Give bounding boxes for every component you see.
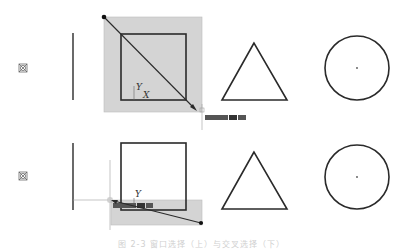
axis-label-x: X [142,90,150,100]
triangle-object [222,43,287,100]
point-marker-icon [19,64,27,72]
axis-label-y: Y [135,189,142,199]
dynamic-input-box[interactable] [205,115,246,120]
start-point-icon [102,15,107,20]
crosshair-cursor-icon[interactable] [200,104,204,130]
cad-selection-diagram: Y X [0,0,403,252]
circle-center-point [356,67,358,69]
axis-label-y: Y [136,82,143,92]
triangle-object [222,152,287,209]
panel-window-selection: Y X [19,15,389,130]
start-point-icon [199,221,203,225]
circle-center-point [356,176,358,178]
figure-caption: 图 2-3 窗口选择（上）与交叉选择（下） [0,238,403,249]
crosshair-cursor-icon[interactable] [73,160,112,230]
point-marker-icon [19,172,27,180]
panel-crossing-selection: Y [19,143,389,230]
